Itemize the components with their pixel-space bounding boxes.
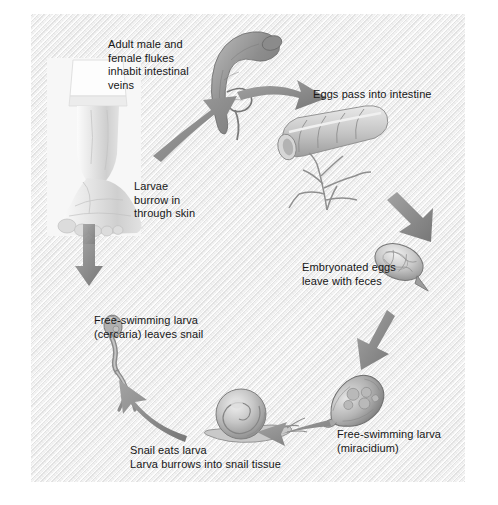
adult-fluke-art (211, 32, 283, 140)
arrow-intestine-to-egg (387, 192, 433, 242)
artwork-layer (31, 14, 465, 482)
label-cercaria: Free-swimming larva (cercaria) leaves sn… (94, 314, 203, 341)
arrow-egg-to-miracidium (357, 310, 395, 370)
label-miracidium: Free-swimming larva (miracidium) (337, 428, 441, 455)
label-eggs-into-intestine: Eggs pass into intestine (313, 88, 432, 102)
snail-art (204, 389, 307, 442)
label-skin-penetration: Larvae burrow in through skin (134, 180, 195, 221)
label-snail: Snail eats larva Larva burrows into snai… (130, 444, 281, 471)
arrow-snail-to-cercaria (119, 380, 187, 442)
intestine-art (275, 106, 387, 210)
label-adult-flukes: Adult male and female flukes inhabit int… (108, 38, 189, 92)
life-cycle-figure: Adult male and female flukes inhabit int… (0, 0, 498, 505)
label-embryonated-eggs: Embryonated eggs leave with feces (302, 261, 396, 288)
